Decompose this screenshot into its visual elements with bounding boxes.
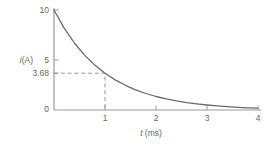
x-tick-label: 3 [205, 113, 210, 123]
current-decay-curve [54, 10, 258, 108]
x-tick-label: 4 [256, 113, 261, 123]
tick-marks [54, 10, 258, 110]
x-axis-label: t (ms) [140, 128, 162, 138]
y-axis-label: i(A) [20, 55, 33, 65]
annotation-dashed-guides [54, 73, 105, 110]
y-tick-label: 10 [40, 5, 50, 15]
x-tick-label: 2 [154, 113, 159, 123]
dashed-guide-lines [54, 73, 105, 110]
x-axis-label-unit: (ms) [143, 128, 163, 138]
exponential-current-decay-figure: 123403.68510 i(A) t (ms) [0, 0, 272, 152]
y-tick-label: 0 [44, 104, 49, 114]
x-tick-label: 1 [103, 113, 108, 123]
chart-canvas: 123403.68510 i(A) t (ms) [0, 0, 272, 152]
y-tick-label: 3.68 [32, 68, 49, 78]
axes [54, 8, 261, 110]
tick-labels: 123403.68510 [32, 5, 260, 123]
y-tick-label: 5 [44, 55, 49, 65]
y-axis-label-unit: (A) [22, 55, 34, 65]
decay-curve-path [54, 10, 258, 108]
